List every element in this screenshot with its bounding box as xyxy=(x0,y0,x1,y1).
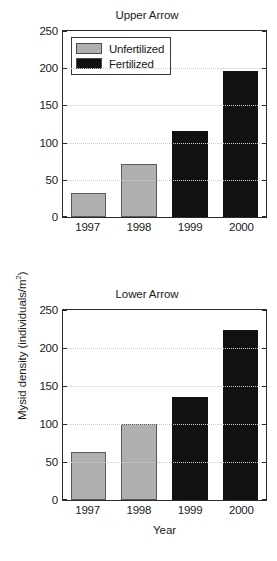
plot-area-upper: Unfertilized Fertilized 050100150200250 xyxy=(62,30,267,218)
legend-item-unfertilized: Unfertilized xyxy=(76,41,164,56)
y-axis-tick-lower-150: 150 xyxy=(39,380,63,392)
bar-upper-1999 xyxy=(172,131,208,217)
bar-lower-1997 xyxy=(71,452,107,500)
y-tick-mark xyxy=(63,310,67,311)
bar-lower-2000 xyxy=(223,330,259,500)
y-tick-mark xyxy=(63,105,67,106)
y-tick-mark xyxy=(63,31,67,32)
bar-upper-1997 xyxy=(71,193,107,217)
y-tick-mark-right xyxy=(262,348,266,349)
panel-upper-arrow: Upper Arrow Unfertilized Fertilized 0501… xyxy=(0,0,277,278)
y-axis-tick-upper-250: 250 xyxy=(39,25,63,37)
y-axis-tick-upper-150: 150 xyxy=(39,99,63,111)
x-axis-tick-lower-1997: 1997 xyxy=(62,504,113,516)
y-axis-tick-lower-100: 100 xyxy=(39,418,63,430)
y-tick-mark-right xyxy=(262,310,266,311)
y-axis-tick-upper-100: 100 xyxy=(39,137,63,149)
y-tick-mark-right xyxy=(262,462,266,463)
gridline xyxy=(63,143,266,144)
bar-lower-1999 xyxy=(172,397,208,500)
y-tick-mark xyxy=(63,499,67,500)
legend-label-unfertilized: Unfertilized xyxy=(109,43,164,55)
x-axis-tick-upper-1997: 1997 xyxy=(62,221,113,233)
y-axis-tick-lower-50: 50 xyxy=(46,456,63,468)
y-tick-mark-right xyxy=(262,105,266,106)
x-axis-title: Year xyxy=(62,524,267,536)
panel-title-upper: Upper Arrow xyxy=(22,9,272,21)
legend-swatch-unfertilized xyxy=(76,43,102,54)
x-axis-tick-upper-1998: 1998 xyxy=(113,221,164,233)
x-axis-tick-lower-2000: 2000 xyxy=(216,504,267,516)
figure: Mysid density (individuals/m2) Upper Arr… xyxy=(0,0,277,561)
y-tick-mark xyxy=(63,216,67,217)
panel-lower-arrow: Lower Arrow 050100150200250 199719981999… xyxy=(0,278,277,561)
x-axis-tick-upper-1999: 1999 xyxy=(165,221,216,233)
y-tick-mark xyxy=(63,68,67,69)
legend: Unfertilized Fertilized xyxy=(71,37,171,75)
y-axis-tick-upper-50: 50 xyxy=(46,174,63,186)
x-axis-tick-labels-upper: 1997199819992000 xyxy=(62,221,267,233)
y-tick-mark-right xyxy=(262,499,266,500)
y-tick-mark xyxy=(63,424,67,425)
bar-group-lower xyxy=(63,310,266,500)
y-tick-mark xyxy=(63,462,67,463)
gridline xyxy=(63,180,266,181)
x-axis-tick-upper-2000: 2000 xyxy=(216,221,267,233)
x-axis-tick-labels-lower: 1997199819992000 xyxy=(62,504,267,516)
y-tick-mark-right xyxy=(262,180,266,181)
bar-upper-2000 xyxy=(223,71,259,217)
plot-area-lower: 050100150200250 xyxy=(62,309,267,501)
y-tick-mark-right xyxy=(262,68,266,69)
gridline xyxy=(63,348,266,349)
gridline xyxy=(63,386,266,387)
y-axis-tick-upper-200: 200 xyxy=(39,62,63,74)
gridline xyxy=(63,462,266,463)
gridline xyxy=(63,105,266,106)
x-axis-tick-lower-1999: 1999 xyxy=(165,504,216,516)
y-tick-mark xyxy=(63,348,67,349)
y-axis-tick-lower-250: 250 xyxy=(39,304,63,316)
x-axis-tick-lower-1998: 1998 xyxy=(113,504,164,516)
y-tick-mark-right xyxy=(262,31,266,32)
y-tick-mark xyxy=(63,180,67,181)
panel-title-lower: Lower Arrow xyxy=(22,288,272,300)
bar-upper-1998 xyxy=(121,164,157,217)
y-tick-mark-right xyxy=(262,143,266,144)
y-tick-mark-right xyxy=(262,216,266,217)
gridline xyxy=(63,68,266,69)
y-tick-mark xyxy=(63,143,67,144)
y-axis-tick-lower-200: 200 xyxy=(39,342,63,354)
y-tick-mark-right xyxy=(262,424,266,425)
y-tick-mark xyxy=(63,386,67,387)
y-tick-mark-right xyxy=(262,386,266,387)
gridline xyxy=(63,424,266,425)
